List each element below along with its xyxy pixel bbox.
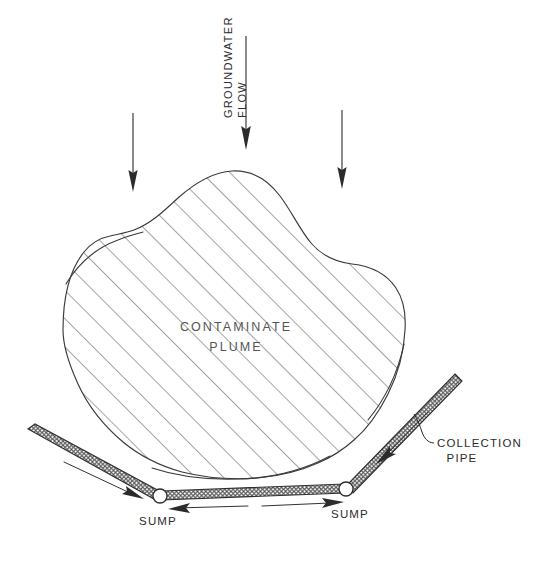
collection-pipe-label-line1: COLLECTION — [437, 437, 522, 449]
pipe-flow-arrow-center — [168, 498, 344, 513]
sump-left-label: SUMP — [139, 515, 177, 527]
engineering-diagram: GROUNDWATER FLOW CONTAMINATE PLUME — [0, 0, 536, 563]
diagram-canvas: GROUNDWATER FLOW CONTAMINATE PLUME — [0, 0, 536, 563]
plume-label-line2: PLUME — [209, 340, 263, 354]
sump-right-label: SUMP — [331, 508, 369, 520]
flow-arrow-left — [128, 113, 137, 192]
plume-label-line1: CONTAMINATE — [180, 320, 292, 334]
sump-right-circle — [339, 482, 353, 496]
groundwater-flow-arrows: GROUNDWATER FLOW — [128, 16, 346, 192]
sump-left-circle — [153, 489, 167, 503]
pipe-segment-center — [162, 484, 345, 500]
groundwater-flow-line2: FLOW — [236, 81, 248, 118]
groundwater-flow-label: GROUNDWATER FLOW — [222, 16, 248, 118]
collection-pipe-label-line2: PIPE — [447, 452, 478, 464]
flow-arrow-right — [337, 110, 346, 189]
pipe-flow-arrow-right — [376, 412, 428, 464]
groundwater-flow-line1: GROUNDWATER — [222, 16, 234, 118]
contaminate-plume: CONTAMINATE PLUME — [50, 150, 430, 500]
